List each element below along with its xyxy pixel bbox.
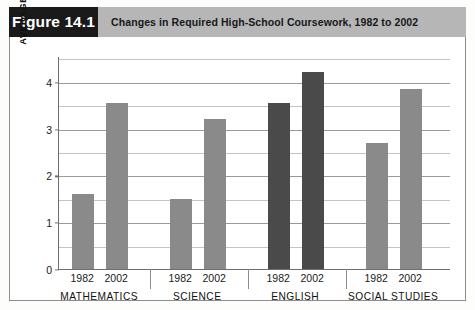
year-label: 2002 <box>202 272 225 284</box>
year-label: 2002 <box>104 272 127 284</box>
year-label: 2002 <box>398 272 421 284</box>
figure-header: Figure 14.1 Changes in Required High-Sch… <box>9 7 466 37</box>
y-tick-label: 3 <box>46 124 52 136</box>
year-label: 2002 <box>300 272 323 284</box>
plot-wrapper: 01234 <box>58 57 450 270</box>
bar <box>106 103 128 269</box>
year-label: 1982 <box>70 272 93 284</box>
figure-container: Figure 14.1 Changes in Required High-Sch… <box>0 0 475 310</box>
category-label: MATHEMATICS <box>60 291 138 302</box>
bar <box>302 72 324 269</box>
x-axis-category-labels: MATHEMATICSSCIENCEENGLISHSOCIAL STUDIES <box>58 291 450 307</box>
bar <box>268 103 290 269</box>
y-tick-label: 0 <box>46 264 52 276</box>
year-label: 1982 <box>364 272 387 284</box>
figure-title-bar: Changes in Required High-School Coursewo… <box>98 7 466 37</box>
x-axis-year-labels: 19822002198220021982200219822002 <box>58 272 450 288</box>
category-label: SCIENCE <box>173 291 221 302</box>
figure-title-text: Changes in Required High-School Coursewo… <box>111 16 418 28</box>
bar <box>366 143 388 269</box>
y-tick-label: 4 <box>46 77 52 89</box>
category-label: SOCIAL STUDIES <box>348 291 438 302</box>
bar <box>72 194 94 269</box>
y-tick-mark <box>55 269 59 270</box>
figure-number-text: Figure 14.1 <box>12 13 95 31</box>
figure-number-badge: Figure 14.1 <box>9 7 98 37</box>
bars-layer <box>59 57 450 269</box>
bar <box>170 199 192 269</box>
category-label: ENGLISH <box>271 291 319 302</box>
bar <box>400 89 422 269</box>
year-label: 1982 <box>266 272 289 284</box>
bar <box>204 119 226 269</box>
year-label: 1982 <box>168 272 191 284</box>
plot-area: 01234 <box>58 57 450 270</box>
y-tick-label: 2 <box>46 170 52 182</box>
y-tick-label: 1 <box>46 217 52 229</box>
